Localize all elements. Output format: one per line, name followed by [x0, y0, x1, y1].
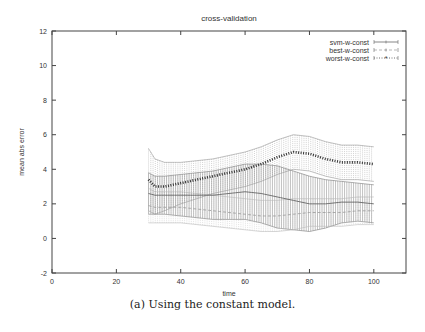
- x-tick-label: 100: [368, 278, 380, 285]
- chart: 020406080100-2024681012 cross-validation…: [0, 0, 425, 300]
- x-tick-label: 0: [50, 278, 54, 285]
- x-tick-label: 20: [112, 278, 120, 285]
- legend-label: worst-w-const: [325, 55, 369, 62]
- x-tick-label: 40: [177, 278, 185, 285]
- legend-label: best-w-const: [329, 47, 369, 54]
- chart-title: cross-validation: [201, 14, 257, 23]
- y-tick-label: 12: [39, 28, 47, 35]
- y-tick-label: -2: [41, 270, 47, 277]
- x-axis-label: time: [222, 290, 235, 297]
- plot-frame: [52, 31, 406, 273]
- x-tick-label: 60: [241, 278, 249, 285]
- y-tick-label: 10: [39, 62, 47, 69]
- figure-caption: (a) Using the constant model.: [0, 298, 425, 311]
- y-tick-label: 4: [43, 166, 47, 173]
- y-tick-label: 8: [43, 97, 47, 104]
- y-tick-label: 0: [43, 235, 47, 242]
- error-bars: [149, 135, 374, 232]
- y-tick-label: 6: [43, 131, 47, 138]
- star-marker-icon: *: [385, 55, 388, 62]
- legend: svm-w-constbest-w-constworst-w-const*: [325, 39, 398, 62]
- x-tick-label: 80: [306, 278, 314, 285]
- axis-ticks: 020406080100-2024681012: [39, 28, 406, 286]
- y-tick-label: 2: [43, 200, 47, 207]
- y-axis-label: mean abs error: [18, 128, 25, 176]
- legend-label: svm-w-const: [330, 39, 369, 46]
